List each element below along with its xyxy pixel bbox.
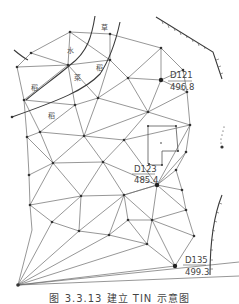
control-point-marker — [159, 78, 163, 82]
control-point-elevation: 485.4 — [134, 175, 158, 185]
figure-caption: 图 3.3.13 建立 TIN 示意图 — [0, 290, 239, 304]
tin-network-canvas: 草 水 稻 稻 菜 稻 D121 496.8 D123 485.4 D135 4… — [0, 0, 239, 290]
control-point-elevation: 499.3 — [185, 267, 209, 277]
dotted-line — [220, 126, 224, 148]
symbol-paddy: 稻 — [96, 63, 103, 72]
control-point-marker — [173, 264, 177, 268]
control-point-name: D123 — [134, 164, 157, 174]
tin-diagram: 草 水 稻 稻 菜 稻 D121 496.8 D123 485.4 D135 4… — [0, 0, 239, 304]
symbol-water: 水 — [67, 46, 74, 55]
symbol-paddy: 稻 — [48, 111, 55, 120]
symbol-grass: 草 — [101, 23, 108, 32]
control-point-name: D121 — [170, 70, 193, 80]
control-point-d121: D121 496.8 — [159, 70, 195, 92]
tin-edges — [17, 32, 239, 285]
control-point-elevation: 496.8 — [170, 82, 194, 92]
symbol-vegetable: 菜 — [74, 73, 81, 82]
symbol-paddy: 稻 — [31, 83, 38, 92]
control-point-name: D135 — [185, 255, 208, 265]
scarp-line-right — [210, 195, 222, 275]
control-point-d123: D123 485.4 — [132, 164, 159, 187]
building-outline — [148, 126, 178, 165]
